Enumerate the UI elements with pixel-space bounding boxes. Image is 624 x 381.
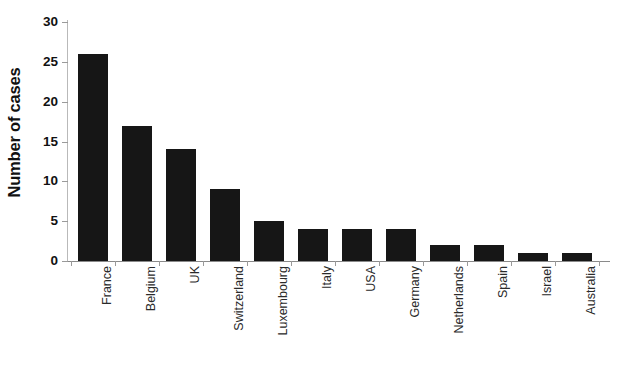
x-axis-label: Israel bbox=[540, 266, 554, 297]
bar bbox=[122, 126, 152, 261]
y-axis-tick bbox=[62, 221, 68, 222]
y-axis-tick bbox=[62, 181, 68, 182]
x-axis-tick bbox=[379, 261, 380, 266]
x-axis-label: Netherlands bbox=[452, 266, 466, 333]
x-axis-label: Spain bbox=[496, 266, 510, 298]
y-axis-tick bbox=[62, 62, 68, 63]
x-axis-label: Italy bbox=[320, 266, 334, 289]
bar bbox=[474, 245, 504, 261]
x-axis-label: Switzerland bbox=[232, 266, 246, 331]
x-axis-label: Australia bbox=[584, 266, 598, 315]
x-axis-label: Luxembourg bbox=[276, 266, 290, 336]
bar bbox=[342, 229, 372, 261]
x-axis-tick bbox=[335, 261, 336, 266]
x-axis-tick bbox=[71, 261, 72, 266]
y-axis-tick-label: 20 bbox=[24, 95, 58, 109]
bar bbox=[386, 229, 416, 261]
y-axis-tick bbox=[62, 261, 68, 262]
bar bbox=[562, 253, 592, 261]
bar bbox=[254, 221, 284, 261]
x-axis-label: France bbox=[100, 266, 114, 305]
bar bbox=[518, 253, 548, 261]
x-axis-tick bbox=[555, 261, 556, 266]
x-axis-label: USA bbox=[364, 266, 378, 292]
x-axis-tick bbox=[599, 261, 600, 266]
x-axis-line bbox=[62, 261, 610, 262]
x-axis-label: UK bbox=[188, 266, 202, 283]
x-axis-tick bbox=[467, 261, 468, 266]
x-axis-tick bbox=[511, 261, 512, 266]
bar bbox=[166, 149, 196, 261]
y-axis-title-label: Number of cases bbox=[6, 68, 25, 198]
y-axis-tick-label: 30 bbox=[24, 15, 58, 29]
x-axis-tick bbox=[203, 261, 204, 266]
x-axis-tick bbox=[247, 261, 248, 266]
y-axis-tick-label: 10 bbox=[24, 175, 58, 189]
y-axis-tick-label: 25 bbox=[24, 55, 58, 69]
bar bbox=[78, 54, 108, 261]
x-axis-tick bbox=[159, 261, 160, 266]
y-axis-tick bbox=[62, 22, 68, 23]
x-axis-tick bbox=[423, 261, 424, 266]
x-axis-tick bbox=[115, 261, 116, 266]
bar bbox=[430, 245, 460, 261]
bar bbox=[298, 229, 328, 261]
y-axis-tick bbox=[62, 142, 68, 143]
y-axis-tick-label: 5 bbox=[24, 214, 58, 228]
x-axis-label: Belgium bbox=[144, 266, 158, 311]
y-axis-tick-label: 15 bbox=[24, 135, 58, 149]
x-axis-label: Germany bbox=[408, 266, 422, 317]
bar-chart: Number of cases 051015202530 FranceBelgi… bbox=[0, 0, 624, 381]
y-axis-tick-label: 0 bbox=[24, 254, 58, 268]
x-axis-tick bbox=[291, 261, 292, 266]
bar bbox=[210, 189, 240, 261]
y-axis-tick bbox=[62, 102, 68, 103]
